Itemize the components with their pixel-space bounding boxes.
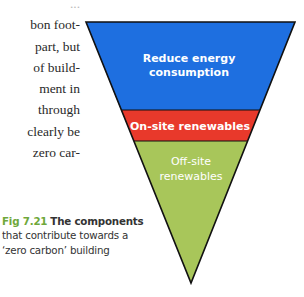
figure-caption: Fig 7.21The components that contribute t… (2, 214, 152, 257)
label-onsite: On-site renewables (130, 120, 250, 133)
label-offsite-line1: Off-site (171, 155, 211, 168)
figure-number: Fig 7.21 (2, 215, 47, 227)
label-offsite-line2: renewables (159, 170, 222, 183)
caption-line: The components (50, 215, 143, 227)
label-reduce-line2: consumption (149, 66, 229, 79)
label-reduce-line1: Reduce energy (143, 52, 236, 65)
caption-line: that contribute towards a (2, 228, 152, 242)
caption-line: ‘zero carbon’ building (2, 243, 152, 257)
